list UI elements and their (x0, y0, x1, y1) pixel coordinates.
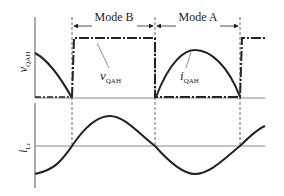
i-leader-line (186, 52, 191, 68)
top-y-axis-label: vQAH (15, 52, 32, 73)
v-leader-line (97, 43, 109, 68)
mode-b-label: Mode B (95, 10, 134, 24)
mode-a-label: Mode A (179, 10, 218, 24)
bottom-y-axis-label: iLr (15, 142, 32, 153)
inductor-current-sine (35, 116, 265, 174)
v-qah-annotation: vQAH (100, 68, 121, 85)
current-half-sine (156, 50, 240, 97)
i-qah-annotation: iQAH (180, 68, 199, 85)
current-half-sine-1 (35, 53, 72, 98)
waveform-diagram: Mode B Mode A vQAH iQAH vQAH iLr (0, 0, 284, 196)
